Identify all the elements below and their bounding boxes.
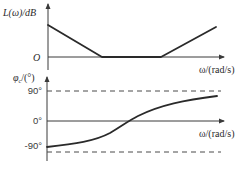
phase-tick-0: 0° (33, 115, 42, 126)
bode-diagram: L(ω)/dB O ω/(rad/s) φc/(°) 90° 0° -90° ω… (0, 0, 243, 173)
phase-tick-90: 90° (28, 85, 43, 96)
phase-x-label: ω/(rad/s) (199, 128, 234, 140)
magnitude-x-label: ω/(rad/s) (199, 64, 234, 76)
origin-label: O (33, 52, 40, 63)
phase-y-label: φc/(°) (13, 72, 35, 84)
magnitude-asymptote-curve (48, 25, 216, 57)
magnitude-plot: L(ω)/dB O ω/(rad/s) (2, 4, 234, 76)
magnitude-y-label: L(ω)/dB (2, 7, 36, 19)
phase-tick-minus90: -90° (24, 140, 42, 151)
phase-plot: φc/(°) 90° 0° -90° ω/(rad/s) (13, 72, 234, 161)
